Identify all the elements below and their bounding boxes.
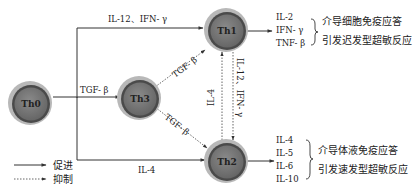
label-th2-th1: IL-4: [206, 89, 216, 106]
th2-effect: 介导体液免疫应答: [318, 144, 398, 156]
label-th0-th1: IL-12、IFN- γ: [108, 14, 167, 24]
th1-cytokine: IFN- γ: [276, 25, 303, 35]
svg-text:Th3: Th3: [130, 94, 150, 104]
th1-output: IL-2 IFN- γ TNF- β 介导细胞免疫应答 引发迟发型超敏反应: [276, 12, 412, 48]
th1-effect: 引发迟发型超敏反应: [322, 34, 412, 46]
th-differentiation-diagram: IL-12、IFN- γ TGF- β IL-4 TGF- β TGF- β I…: [0, 0, 416, 193]
legend: 促进 抑制: [14, 159, 73, 185]
svg-text:Th1: Th1: [217, 26, 237, 36]
th1-brace: [311, 19, 318, 45]
label-th3-th1: TGF- β: [170, 54, 199, 79]
svg-text:Th0: Th0: [21, 99, 41, 109]
label-th0-th2: IL-4: [138, 165, 155, 175]
th2-cytokine: IL-6: [276, 161, 293, 171]
legend-inhibit-label: 抑制: [53, 173, 73, 185]
legend-promote-label: 促进: [53, 159, 73, 171]
label-th0-th3: TGF- β: [80, 85, 109, 95]
th2-output: IL-4 IL-5 IL-6 IL-10 介导体液免疫应答 引发速发型超敏反应: [276, 135, 408, 184]
th2-cytokine: IL-10: [276, 174, 299, 184]
label-th3-th2: TGF- β: [163, 112, 192, 137]
th2-effect: 引发速发型超敏反应: [318, 163, 408, 175]
th2-cytokine: IL-5: [276, 148, 293, 158]
cell-th0: Th0: [8, 81, 52, 125]
label-th1-th2: IL-12、IFN- γ: [235, 58, 245, 117]
th1-cytokine: TNF- β: [276, 38, 305, 48]
th1-effect: 介导细胞免疫应答: [322, 15, 402, 27]
cell-th3: Th3: [117, 76, 161, 120]
svg-text:Th2: Th2: [217, 157, 237, 167]
th2-brace: [306, 140, 313, 179]
cell-th2: Th2: [204, 139, 248, 183]
th1-cytokine: IL-2: [276, 12, 293, 22]
cell-th1: Th1: [204, 8, 248, 52]
th2-cytokine: IL-4: [276, 135, 293, 145]
